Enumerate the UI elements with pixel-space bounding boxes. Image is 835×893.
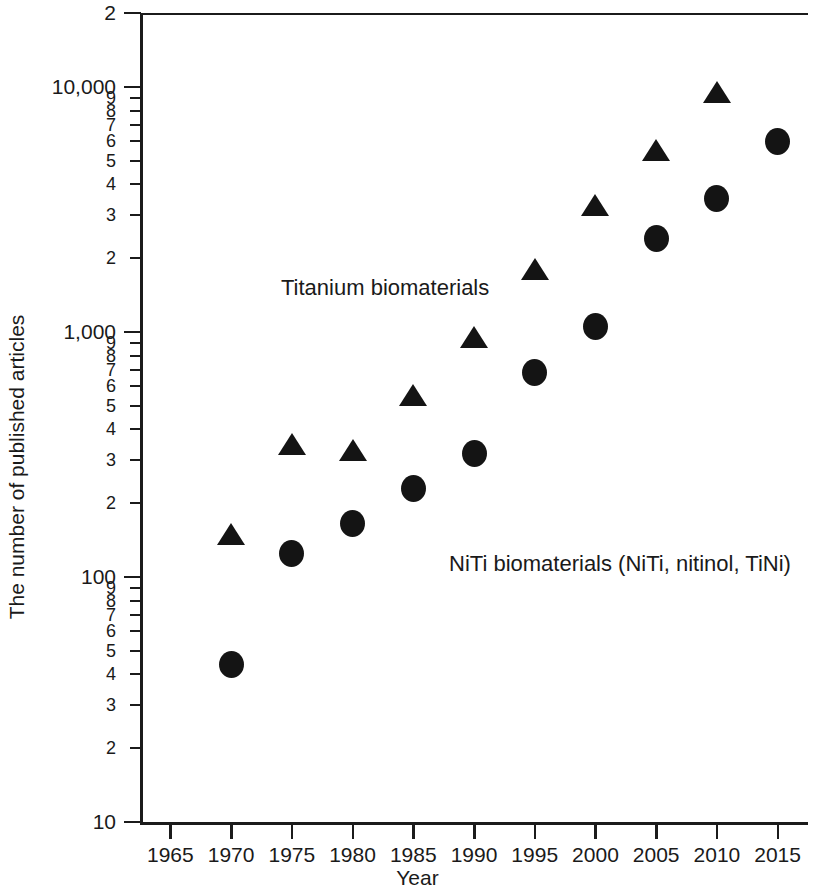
y-tick-mark — [130, 385, 141, 387]
series-annotation-titanium: Titanium biomaterials — [281, 275, 489, 301]
y-tick-label: 3 — [106, 451, 116, 469]
y-tick-label: 3 — [106, 206, 116, 224]
y-tick-mark — [130, 183, 141, 185]
data-point-marker — [340, 510, 365, 537]
y-tick-label: 5 — [106, 642, 116, 660]
y-tick-mark — [124, 86, 141, 88]
x-tick-mark — [352, 824, 355, 839]
data-point-marker — [460, 326, 488, 348]
x-tick-mark — [594, 824, 597, 839]
y-tick-mark — [130, 600, 141, 602]
x-axis-title: Year — [0, 866, 835, 890]
y-tick-label: 5 — [106, 152, 116, 170]
y-tick-label: 2 — [106, 739, 116, 757]
y-tick-mark — [130, 160, 141, 162]
y-tick-mark — [130, 140, 141, 142]
y-tick-label: 4 — [106, 175, 116, 193]
data-point-marker — [217, 523, 245, 545]
y-tick-label: 4 — [106, 665, 116, 683]
x-tick-mark — [655, 824, 658, 839]
x-tick-label: 2015 — [738, 843, 818, 867]
y-tick-mark — [130, 110, 141, 112]
data-point-marker — [399, 384, 427, 406]
y-tick-label: 6 — [106, 377, 116, 395]
data-point-marker — [583, 313, 608, 340]
y-tick-label: 6 — [106, 622, 116, 640]
y-tick-mark — [130, 630, 141, 632]
data-point-marker — [642, 139, 670, 161]
y-tick-mark — [130, 342, 141, 344]
data-point-marker — [522, 359, 547, 386]
x-tick-mark — [473, 824, 476, 839]
data-point-marker — [279, 540, 304, 567]
x-tick-mark — [412, 824, 415, 839]
y-tick-label: 4 — [106, 420, 116, 438]
y-tick-mark — [130, 650, 141, 652]
data-point-marker — [462, 440, 487, 467]
y-tick-mark — [130, 214, 141, 216]
y-tick-mark — [124, 821, 141, 823]
data-point-marker — [765, 128, 790, 155]
data-point-marker — [278, 433, 306, 455]
x-tick-mark — [716, 824, 719, 839]
x-tick-mark — [169, 824, 172, 839]
y-tick-mark — [130, 97, 141, 99]
y-axis-title: The number of published articles — [5, 207, 29, 727]
y-tick-mark — [130, 369, 141, 371]
data-point-marker — [401, 475, 426, 502]
y-tick-label: 10 — [93, 811, 116, 832]
data-point-marker — [703, 81, 731, 103]
data-point-marker — [644, 225, 669, 252]
y-tick-mark — [130, 704, 141, 706]
plot-top-border — [140, 13, 808, 15]
y-tick-mark — [130, 124, 141, 126]
publications-log-scatter-chart: 210,0001,0001001098765432987654329876543… — [0, 0, 835, 893]
x-tick-mark — [777, 824, 780, 839]
y-tick-label: 3 — [106, 696, 116, 714]
y-tick-label: 2 — [106, 249, 116, 267]
x-tick-mark — [291, 824, 294, 839]
y-tick-mark — [130, 587, 141, 589]
y-tick-mark — [130, 747, 141, 749]
y-tick-label: 2 — [104, 2, 116, 23]
y-tick-label: 5 — [106, 397, 116, 415]
data-point-marker — [521, 258, 549, 280]
y-tick-mark — [124, 576, 141, 578]
y-tick-mark — [130, 459, 141, 461]
y-tick-mark — [130, 673, 141, 675]
y-tick-mark — [124, 331, 141, 333]
y-axis-line — [140, 13, 143, 824]
y-tick-mark — [124, 12, 141, 14]
data-point-marker — [581, 194, 609, 216]
data-point-marker — [219, 651, 244, 678]
series-annotation-niti: NiTi biomaterials (NiTi, nitinol, TiNi) — [449, 551, 791, 577]
data-point-marker — [339, 439, 367, 461]
y-tick-label: 6 — [106, 132, 116, 150]
y-tick-mark — [130, 428, 141, 430]
x-tick-mark — [230, 824, 233, 839]
y-tick-mark — [130, 257, 141, 259]
y-tick-mark — [130, 405, 141, 407]
x-tick-mark — [534, 824, 537, 839]
y-tick-label: 2 — [106, 494, 116, 512]
y-tick-mark — [130, 614, 141, 616]
y-tick-mark — [130, 355, 141, 357]
data-point-marker — [704, 185, 729, 212]
y-tick-mark — [130, 502, 141, 504]
